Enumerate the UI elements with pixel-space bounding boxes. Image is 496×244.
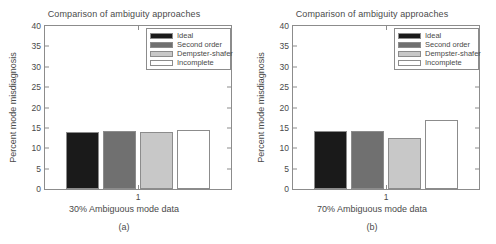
- y-tick-mark: [293, 66, 297, 67]
- y-tick-label: 10: [265, 144, 289, 153]
- chart-panel-b: Comparison of ambiguity approaches Perce…: [248, 0, 496, 244]
- x-tick-mark: [386, 26, 387, 30]
- y-tick-mark: [475, 127, 479, 128]
- legend-item[interactable]: Ideal: [398, 31, 475, 40]
- bar-second-order: [103, 131, 136, 189]
- bar-second-order: [351, 131, 384, 189]
- y-tick-mark: [227, 107, 231, 108]
- bar-incomplete: [177, 130, 210, 189]
- x-tick-mark: [138, 26, 139, 30]
- y-tick-label: 15: [265, 124, 289, 133]
- chart-title-a: Comparison of ambiguity approaches: [0, 9, 248, 19]
- x-tick-mark: [386, 185, 387, 189]
- figure: Comparison of ambiguity approaches Perce…: [0, 0, 496, 244]
- y-tick-label: 20: [17, 103, 41, 112]
- panel-caption-b: (b): [248, 222, 496, 232]
- legend-swatch: [398, 33, 421, 39]
- legend-item[interactable]: Dempster-shafer: [150, 49, 227, 58]
- legend-swatch: [398, 42, 421, 48]
- plot-area-b: 0510152025303540 IdealSecond orderDempst…: [292, 25, 480, 190]
- y-tick-label: 15: [17, 124, 41, 133]
- legend-item[interactable]: Incomplete: [150, 58, 227, 67]
- legend-swatch: [150, 42, 173, 48]
- y-tick-label: 10: [17, 144, 41, 153]
- legend-label: Second order: [425, 41, 470, 49]
- y-tick-mark: [45, 148, 49, 149]
- legend-item[interactable]: Second order: [150, 40, 227, 49]
- x-axis-label-a: 30% Ambiguous mode data: [0, 204, 248, 214]
- y-tick-mark: [293, 107, 297, 108]
- bar-ideal: [314, 131, 347, 189]
- y-tick-mark: [475, 148, 479, 149]
- legend-swatch: [150, 33, 173, 39]
- y-tick-label: 25: [17, 83, 41, 92]
- legend-a: IdealSecond orderDempster-shaferIncomple…: [146, 28, 231, 70]
- y-tick-mark: [45, 107, 49, 108]
- legend-item[interactable]: Dempster-shafer: [398, 49, 475, 58]
- legend-label: Incomplete: [177, 59, 214, 67]
- y-tick-mark: [293, 148, 297, 149]
- y-tick-mark: [293, 87, 297, 88]
- legend-swatch: [150, 60, 173, 66]
- legend-label: Dempster-shafer: [177, 50, 233, 58]
- legend-label: Dempster-shafer: [425, 50, 481, 58]
- y-tick-mark: [227, 168, 231, 169]
- y-tick-label: 0: [265, 185, 289, 194]
- legend-item[interactable]: Incomplete: [398, 58, 475, 67]
- y-tick-label: 35: [265, 42, 289, 51]
- y-tick-mark: [45, 127, 49, 128]
- plot-area-a: 0510152025303540 IdealSecond orderDempst…: [44, 25, 232, 190]
- x-tick-mark: [138, 185, 139, 189]
- y-tick-mark: [45, 66, 49, 67]
- y-tick-mark: [293, 168, 297, 169]
- y-tick-label: 40: [17, 22, 41, 31]
- x-axis-label-b: 70% Ambiguous mode data: [248, 204, 496, 214]
- legend-swatch: [398, 60, 421, 66]
- legend-b: IdealSecond orderDempster-shaferIncomple…: [394, 28, 479, 70]
- legend-label: Second order: [177, 41, 222, 49]
- y-tick-mark: [475, 87, 479, 88]
- chart-title-b: Comparison of ambiguity approaches: [248, 9, 496, 19]
- x-tick-label-b: 1: [384, 192, 389, 202]
- y-tick-mark: [45, 168, 49, 169]
- y-tick-mark: [227, 148, 231, 149]
- legend-swatch: [150, 51, 173, 57]
- y-tick-label: 25: [265, 83, 289, 92]
- y-tick-label: 20: [265, 103, 289, 112]
- legend-label: Ideal: [177, 32, 193, 40]
- bar-incomplete: [425, 120, 458, 189]
- y-tick-label: 35: [17, 42, 41, 51]
- y-tick-mark: [475, 107, 479, 108]
- y-tick-mark: [45, 46, 49, 47]
- y-tick-mark: [45, 87, 49, 88]
- y-tick-mark: [293, 46, 297, 47]
- y-tick-label: 40: [265, 22, 289, 31]
- bar-dempster-shafer: [388, 138, 421, 189]
- x-tick-label-a: 1: [136, 192, 141, 202]
- chart-panel-a: Comparison of ambiguity approaches Perce…: [0, 0, 248, 244]
- bar-ideal: [66, 132, 99, 189]
- y-tick-mark: [227, 87, 231, 88]
- bar-dempster-shafer: [140, 132, 173, 189]
- y-tick-mark: [475, 168, 479, 169]
- y-tick-mark: [227, 127, 231, 128]
- legend-item[interactable]: Second order: [398, 40, 475, 49]
- legend-label: Incomplete: [425, 59, 462, 67]
- y-tick-label: 0: [17, 185, 41, 194]
- legend-label: Ideal: [425, 32, 441, 40]
- y-tick-label: 5: [265, 164, 289, 173]
- y-tick-label: 30: [265, 63, 289, 72]
- y-tick-label: 5: [17, 164, 41, 173]
- y-tick-label: 30: [17, 63, 41, 72]
- panel-caption-a: (a): [0, 222, 248, 232]
- legend-item[interactable]: Ideal: [150, 31, 227, 40]
- y-tick-mark: [293, 127, 297, 128]
- legend-swatch: [398, 51, 421, 57]
